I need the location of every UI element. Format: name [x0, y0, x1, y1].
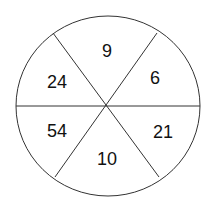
wheel-diagram: [0, 0, 210, 207]
segment-upper-left-value: 24: [47, 73, 67, 91]
segment-lower-left-value: 54: [47, 122, 67, 140]
segment-upper-right-value: 6: [150, 69, 160, 87]
segment-top-value: 9: [102, 42, 112, 60]
segment-bottom-value: 10: [97, 150, 117, 168]
segment-lower-right-value: 21: [153, 123, 173, 141]
